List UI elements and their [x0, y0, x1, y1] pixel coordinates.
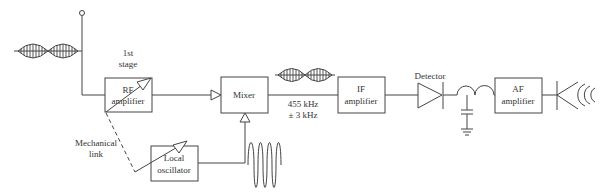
- receiver-diagram: 1st stage RF amplifier Mixer Mechanical …: [0, 0, 614, 196]
- ground-icon: [461, 129, 473, 135]
- lo-sine-wave-icon: [248, 143, 281, 188]
- antenna-icon: [80, 11, 106, 96]
- mechanical-link-label: Mechanical: [75, 138, 117, 148]
- if-am-wave-icon: [275, 62, 335, 88]
- local-oscillator-label: Local: [164, 153, 185, 163]
- mechanical-link-label-2: link: [89, 149, 104, 159]
- local-oscillator-block: Local oscillator: [135, 141, 198, 181]
- mixer-block: Mixer: [221, 77, 268, 113]
- af-amplifier-label-2: amplifier: [502, 96, 535, 106]
- af-amplifier-block: AF amplifier: [495, 78, 542, 113]
- inductor-icon: [457, 86, 494, 96]
- if-frequency-label: 455 kHz: [288, 99, 319, 109]
- capacitor-icon: [461, 95, 473, 129]
- rf-amplifier-label: RF: [122, 85, 133, 95]
- af-amplifier-label: AF: [512, 84, 524, 94]
- detector-diode-icon: [418, 82, 443, 109]
- sound-waves-icon: [578, 84, 595, 106]
- rf-amplifier-block: RF amplifier: [105, 78, 152, 112]
- am-input-wave-icon: [14, 38, 82, 64]
- first-stage-label-2: stage: [119, 59, 138, 69]
- first-stage-label: 1st: [123, 48, 134, 58]
- if-bandwidth-label: ± 3 kHz: [289, 110, 318, 120]
- if-amplifier-label: IF: [357, 84, 365, 94]
- mixer-lo-input-arrow-icon: [240, 113, 250, 122]
- local-oscillator-label-2: oscillator: [157, 165, 191, 175]
- mixer-input-arrow-icon: [211, 90, 221, 100]
- speaker-icon: [557, 81, 578, 110]
- if-amplifier-label-2: amplifier: [345, 96, 378, 106]
- detector-label: Detector: [415, 71, 446, 81]
- mixer-label: Mixer: [233, 90, 255, 100]
- if-amplifier-block: IF amplifier: [338, 77, 385, 113]
